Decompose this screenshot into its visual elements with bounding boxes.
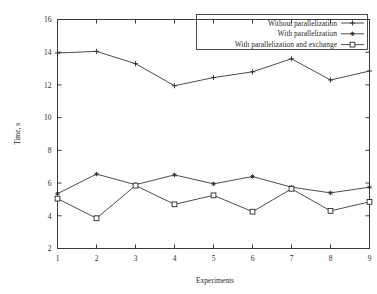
- y-tick-label: 14: [44, 48, 52, 57]
- series-line-1: [58, 51, 370, 85]
- x-tick-label: 3: [134, 254, 138, 263]
- x-tick-label: 8: [329, 254, 333, 263]
- data-series-group: [55, 49, 372, 221]
- legend-label-3: With parallelization and exchange: [235, 40, 338, 49]
- data-point-marker-3-9: [367, 199, 372, 204]
- data-point-marker-3-8: [328, 208, 333, 213]
- x-tick-label: 2: [95, 254, 99, 263]
- x-tick-label: 6: [251, 254, 255, 263]
- data-point-marker-3-3: [133, 183, 138, 188]
- data-point-marker-3-6: [250, 209, 255, 214]
- y-tick-label: 10: [44, 113, 52, 122]
- chart-container: 246810121416 123456789 Without paralleli…: [0, 0, 377, 294]
- y-tick-label: 16: [44, 15, 52, 24]
- series-2: [55, 172, 371, 196]
- legend-label-2: With parallelization: [278, 29, 338, 38]
- y-tick-label: 12: [44, 81, 52, 90]
- y-tick-label: 2: [48, 244, 52, 253]
- data-point-marker-3-4: [172, 202, 177, 207]
- x-tick-label: 1: [56, 254, 60, 263]
- y-tick-label: 4: [48, 212, 52, 221]
- data-point-marker-legend-3: [350, 42, 355, 47]
- x-tick-label: 9: [368, 254, 372, 263]
- data-point-marker-3-7: [289, 186, 294, 191]
- series-3: [55, 183, 372, 221]
- y-axis-title: Time, s: [13, 123, 22, 145]
- y-tick-label: 8: [48, 146, 52, 155]
- series-1: [55, 49, 372, 89]
- y-tick-label: 6: [48, 179, 52, 188]
- y-axis-ticks: 246810121416: [44, 15, 370, 253]
- legend-label-1: Without parallelization: [268, 19, 337, 28]
- x-axis-title: Experiments: [196, 276, 234, 285]
- series-line-3: [58, 186, 370, 219]
- x-tick-label: 5: [212, 254, 216, 263]
- data-point-marker-3-5: [211, 193, 216, 198]
- x-tick-label: 7: [290, 254, 294, 263]
- x-tick-label: 4: [173, 254, 177, 263]
- x-axis-ticks: 123456789: [56, 20, 372, 263]
- data-point-marker-3-2: [94, 216, 99, 221]
- line-chart-plot: 246810121416 123456789 Without paralleli…: [0, 0, 377, 294]
- data-point-marker-3-1: [55, 196, 60, 201]
